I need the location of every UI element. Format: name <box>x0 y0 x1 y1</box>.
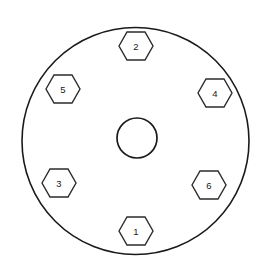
bolt-label-1: 1 <box>133 226 138 237</box>
bolt-label-3: 3 <box>56 178 61 189</box>
bolt-label-2: 2 <box>133 41 138 52</box>
bolt-label-6: 6 <box>206 180 211 191</box>
center-bore-circle <box>117 118 157 158</box>
diagram-canvas: 254361 <box>0 0 269 279</box>
bolt-label-4: 4 <box>212 88 217 99</box>
bolt-label-5: 5 <box>60 84 65 95</box>
flange-diagram: 254361 <box>0 0 269 279</box>
